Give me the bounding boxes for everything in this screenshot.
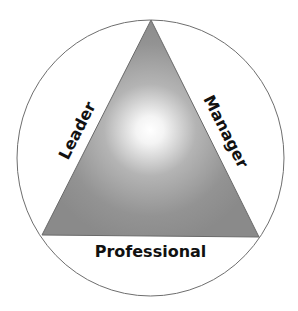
leader-manager-professional-diagram: Leader Manager Professional	[0, 0, 298, 311]
label-professional: Professional	[95, 242, 207, 261]
